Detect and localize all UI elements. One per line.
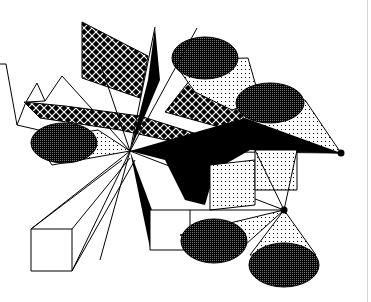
lower-cones: [180, 210, 319, 287]
left-wireframe-box: [31, 158, 135, 271]
black-spike-down: [130, 151, 152, 248]
vanishing-point-lower: [281, 207, 288, 214]
vanishing-point-right: [338, 150, 345, 157]
lower-right-disc: [249, 243, 319, 287]
lower-left-disc: [181, 219, 247, 263]
crosshatch-upper-quad: [82, 22, 148, 98]
geometric-drawing: [0, 0, 371, 302]
right-edge-divider: [367, 0, 368, 302]
